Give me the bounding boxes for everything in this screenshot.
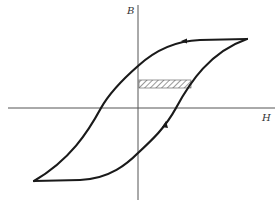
upper-branch-curve <box>34 39 247 181</box>
h-axis-label: H <box>261 112 271 123</box>
hysteresis-diagram: B H <box>0 0 277 203</box>
b-axis-label: B <box>126 5 134 16</box>
hatched-region <box>139 80 191 88</box>
lower-branch-curve <box>34 39 247 181</box>
